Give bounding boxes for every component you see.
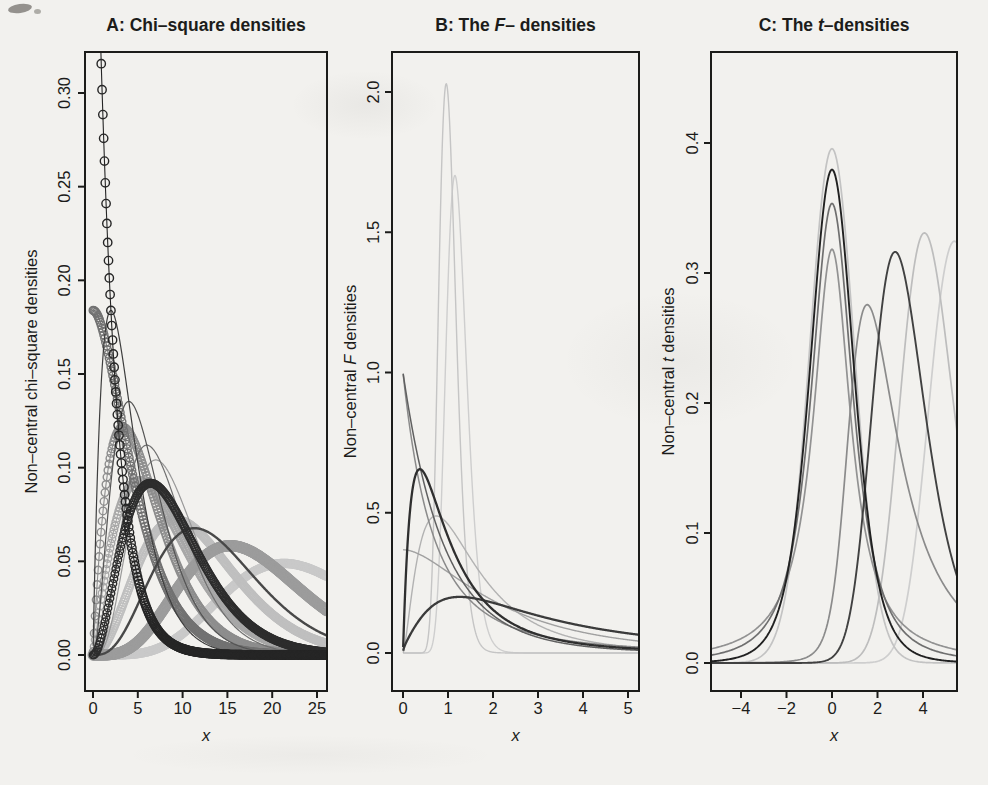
y-tick-label: 0.30 xyxy=(55,77,73,109)
scanned-figure-page: 05101520250.000.050.100.150.200.250.30A:… xyxy=(0,0,988,785)
y-tick-label: 0.05 xyxy=(55,545,73,577)
x-tick-label: 1 xyxy=(443,699,452,717)
x-tick-label: 20 xyxy=(263,699,281,717)
panel-b-x-axis-title: x xyxy=(510,726,520,744)
panel-c-y-axis-title: Non–central t densities xyxy=(659,288,677,456)
densities-figure-svg: 05101520250.000.050.100.150.200.250.30A:… xyxy=(0,0,988,785)
y-tick-label: 0.25 xyxy=(55,171,73,203)
x-tick-label: 4 xyxy=(578,699,587,717)
y-tick-label: 0.0 xyxy=(683,652,701,675)
x-tick-label: 0 xyxy=(398,699,407,717)
x-tick-label: 5 xyxy=(133,699,142,717)
curve-t-df-30-ncp-0 xyxy=(709,149,957,663)
y-tick-label: 0.00 xyxy=(55,639,73,671)
panel-a-group: 05101520250.000.050.100.150.200.250.30A:… xyxy=(22,0,332,744)
y-tick-label: 0.3 xyxy=(683,262,701,285)
panel-b-title: B: The F– densities xyxy=(435,15,596,35)
panel-c-group: −4−20240.00.10.20.30.4C: The t–densities… xyxy=(659,15,957,744)
x-tick-label: 15 xyxy=(218,699,236,717)
plot-box xyxy=(392,52,639,691)
x-tick-label: −4 xyxy=(732,699,751,717)
x-tick-label: 0 xyxy=(827,699,836,717)
y-tick-label: 1.5 xyxy=(364,221,382,244)
y-tick-label: 0.4 xyxy=(683,132,701,155)
panel-a-curves xyxy=(88,0,332,660)
y-tick-label: 0.15 xyxy=(55,358,73,390)
panel-a-x-axis-title: x xyxy=(201,726,211,744)
y-tick-label: 0.1 xyxy=(683,522,701,545)
x-tick-label: 2 xyxy=(488,699,497,717)
x-tick-label: −2 xyxy=(777,699,796,717)
curve-f-df1-100-df2-100-ncp-20 xyxy=(403,175,641,653)
panel-b-group: 0123450.00.51.01.52.0B: The F– densities… xyxy=(341,15,641,744)
y-tick-label: 2.0 xyxy=(364,81,382,104)
y-tick-label: 0.2 xyxy=(683,392,701,415)
x-tick-label: 10 xyxy=(173,699,191,717)
panel-c-x-axis-title: x xyxy=(829,726,839,744)
panel-c-curves xyxy=(709,149,957,663)
panel-a-title: A: Chi–square densities xyxy=(106,15,306,35)
panel-a-y-axis-title: Non–central chi–square densities xyxy=(22,250,40,494)
y-tick-label: 0.10 xyxy=(55,452,73,484)
x-tick-label: 2 xyxy=(873,699,882,717)
x-tick-label: 0 xyxy=(88,699,97,717)
y-tick-label: 0.20 xyxy=(55,264,73,296)
y-tick-label: 0.0 xyxy=(364,642,382,665)
x-tick-label: 5 xyxy=(623,699,632,717)
curve-t-df-2-ncp-2 xyxy=(709,305,957,663)
x-tick-label: 3 xyxy=(533,699,542,717)
plot-box xyxy=(85,52,327,691)
curve-t-df-30-ncp-5-5 xyxy=(709,241,957,663)
curve-f-df1-3-df2-4-ncp-6 xyxy=(403,597,641,651)
curve-t-df-8-ncp-3 xyxy=(709,252,957,663)
y-tick-label: 0.5 xyxy=(364,501,382,524)
y-tick-label: 1.0 xyxy=(364,361,382,384)
panel-c-title: C: The t–densities xyxy=(759,15,910,35)
x-tick-label: 25 xyxy=(308,699,326,717)
x-tick-label: 4 xyxy=(918,699,927,717)
panel-b-y-axis-title: Non–central F densities xyxy=(341,285,359,458)
panel-b-curves xyxy=(403,84,641,653)
